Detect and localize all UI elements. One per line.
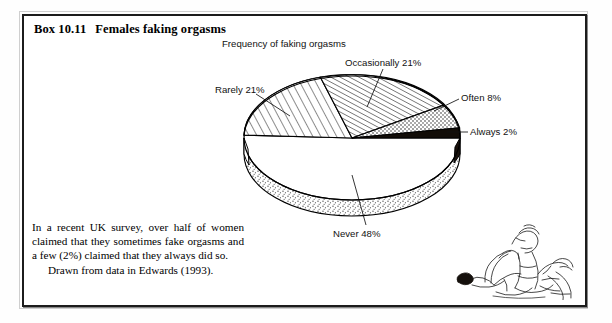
caption-paragraph-1: In a recent UK survey, over half of wome… <box>32 220 244 263</box>
chart-title: Frequency of faking orgasms <box>222 38 346 49</box>
pie-slices <box>244 75 460 138</box>
pie-3d-side <box>244 138 460 216</box>
pie-label-always: Always 2% <box>470 126 517 137</box>
page-title: Box 10.11Females faking orgasms <box>34 22 226 37</box>
pie-label-occasionally: Occasionally 21% <box>345 57 421 68</box>
box-number: Box 10.11 <box>34 22 86 36</box>
pie-label-rarely: Rarely 21% <box>215 84 265 95</box>
box-caption: In a recent UK survey, over half of wome… <box>32 220 244 277</box>
pie-chart <box>232 60 472 220</box>
box-page: Box 10.11Females faking orgasms Frequenc… <box>0 0 612 323</box>
box-title-text: Females faking orgasms <box>95 22 226 36</box>
caption-paragraph-2: Drawn from data in Edwards (1993). <box>32 263 244 277</box>
pie-label-never: Never 48% <box>333 228 380 239</box>
reclining-couple-illustration <box>452 222 577 300</box>
pie-label-often: Often 8% <box>461 92 501 103</box>
